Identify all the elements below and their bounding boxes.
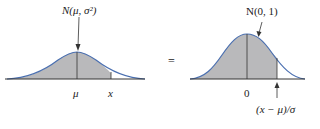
right-mean-tick-label: 0 — [244, 88, 250, 99]
right-plot-title: N(0, 1) — [246, 6, 278, 17]
equals-sign: = — [168, 55, 175, 67]
left-plot-title: N(μ, σ²) — [62, 5, 96, 16]
left-x-tick-label: x — [108, 88, 113, 99]
right-z-tick-label: (x − μ)/σ — [256, 104, 295, 115]
left-normal-curve — [5, 17, 145, 79]
left-mean-tick-label: μ — [73, 88, 79, 99]
